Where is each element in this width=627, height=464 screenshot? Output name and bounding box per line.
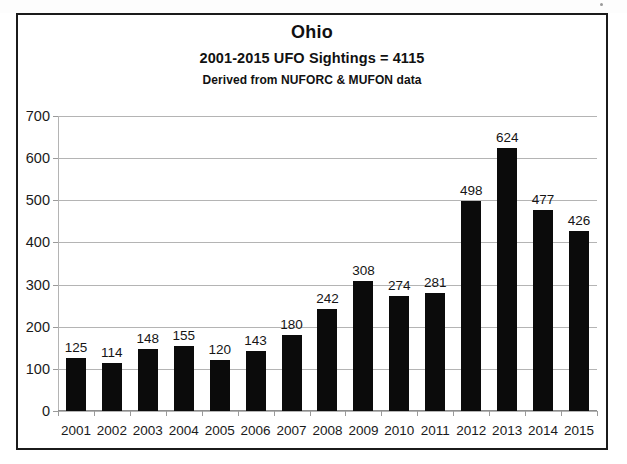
x-tick-mark bbox=[274, 411, 275, 416]
x-tick-mark bbox=[417, 411, 418, 416]
bar-group[interactable]: 3082009 bbox=[345, 116, 381, 411]
y-tick-label: 400 bbox=[26, 234, 50, 250]
y-tick-label: 200 bbox=[26, 319, 50, 335]
scan-artifact-band bbox=[0, 0, 627, 13]
bar[interactable] bbox=[497, 148, 517, 411]
x-tick-label: 2012 bbox=[456, 423, 486, 438]
bar-value-label: 114 bbox=[101, 345, 123, 360]
bar-group[interactable]: 2812011 bbox=[417, 116, 453, 411]
bar-value-label: 143 bbox=[244, 333, 267, 348]
x-tick-mark bbox=[381, 411, 382, 416]
gridline bbox=[58, 411, 597, 412]
bar-group[interactable]: 4982012 bbox=[453, 116, 489, 411]
y-tick-label: 100 bbox=[26, 361, 50, 377]
bar[interactable] bbox=[102, 363, 122, 411]
x-tick-mark bbox=[561, 411, 562, 416]
bar-group[interactable]: 1802007 bbox=[274, 116, 310, 411]
bar-group[interactable]: 4262015 bbox=[561, 116, 597, 411]
plot-area: 0100200300400500600700 12520011142002148… bbox=[58, 116, 597, 411]
bar[interactable] bbox=[353, 281, 373, 411]
bar[interactable] bbox=[282, 335, 302, 411]
x-tick-mark bbox=[597, 411, 598, 416]
bar[interactable] bbox=[210, 360, 230, 411]
x-tick-label: 2008 bbox=[312, 423, 342, 438]
bar-group[interactable]: 2742010 bbox=[381, 116, 417, 411]
x-tick-label: 2009 bbox=[348, 423, 378, 438]
x-tick-mark bbox=[453, 411, 454, 416]
x-tick-label: 2002 bbox=[97, 423, 127, 438]
x-tick-mark bbox=[166, 411, 167, 416]
bar[interactable] bbox=[174, 346, 194, 411]
bar-value-label: 180 bbox=[280, 317, 303, 332]
bar[interactable] bbox=[66, 358, 86, 411]
bar-value-label: 155 bbox=[172, 328, 195, 343]
chart-frame: Ohio 2001-2015 UFO Sightings = 4115 Deri… bbox=[16, 13, 608, 450]
bar[interactable] bbox=[569, 231, 589, 411]
x-tick-label: 2005 bbox=[205, 423, 235, 438]
bar-group[interactable]: 4772014 bbox=[525, 116, 561, 411]
bar-group[interactable]: 1432006 bbox=[238, 116, 274, 411]
bar-group[interactable]: 1252001 bbox=[58, 116, 94, 411]
x-tick-mark bbox=[310, 411, 311, 416]
x-tick-mark bbox=[58, 411, 59, 416]
x-tick-mark bbox=[202, 411, 203, 416]
bar-value-label: 274 bbox=[388, 278, 411, 293]
x-tick-mark bbox=[525, 411, 526, 416]
y-tick-label: 700 bbox=[26, 108, 50, 124]
bar[interactable] bbox=[533, 210, 553, 411]
x-tick-label: 2004 bbox=[169, 423, 199, 438]
bar-group[interactable]: 2422008 bbox=[310, 116, 346, 411]
bar-group[interactable]: 1202005 bbox=[202, 116, 238, 411]
bar[interactable] bbox=[246, 351, 266, 411]
y-tick-label: 600 bbox=[26, 150, 50, 166]
bar[interactable] bbox=[425, 293, 445, 411]
bar-value-label: 148 bbox=[137, 331, 160, 346]
title-block: Ohio 2001-2015 UFO Sightings = 4115 Deri… bbox=[18, 21, 606, 88]
bar-value-label: 281 bbox=[424, 275, 447, 290]
bar-value-label: 242 bbox=[316, 291, 339, 306]
x-tick-label: 2003 bbox=[133, 423, 163, 438]
bar-value-label: 624 bbox=[496, 130, 519, 145]
y-tick-label: 0 bbox=[42, 403, 50, 419]
bar-value-label: 120 bbox=[208, 342, 231, 357]
x-tick-mark bbox=[489, 411, 490, 416]
bar-group[interactable]: 1482003 bbox=[130, 116, 166, 411]
x-tick-label: 2007 bbox=[277, 423, 307, 438]
x-tick-mark bbox=[130, 411, 131, 416]
bar[interactable] bbox=[138, 349, 158, 411]
chart-subtitle: 2001-2015 UFO Sightings = 4115 bbox=[18, 48, 606, 68]
x-tick-label: 2001 bbox=[61, 423, 91, 438]
bar-group[interactable]: 6242013 bbox=[489, 116, 525, 411]
x-tick-label: 2015 bbox=[564, 423, 594, 438]
x-tick-mark bbox=[94, 411, 95, 416]
x-tick-label: 2006 bbox=[241, 423, 271, 438]
bar[interactable] bbox=[389, 296, 409, 411]
chart-source-note: Derived from NUFORC & MUFON data bbox=[18, 72, 606, 88]
bar-group[interactable]: 1142002 bbox=[94, 116, 130, 411]
y-tick-label: 500 bbox=[26, 192, 50, 208]
bar-group[interactable]: 1552004 bbox=[166, 116, 202, 411]
bar-value-label: 498 bbox=[460, 183, 483, 198]
bar-value-label: 477 bbox=[532, 192, 555, 207]
bar-value-label: 308 bbox=[352, 263, 375, 278]
x-tick-label: 2013 bbox=[492, 423, 522, 438]
x-tick-mark bbox=[345, 411, 346, 416]
x-tick-mark bbox=[238, 411, 239, 416]
x-tick-label: 2014 bbox=[528, 423, 558, 438]
bar[interactable] bbox=[461, 201, 481, 411]
x-tick-label: 2011 bbox=[421, 423, 450, 438]
x-tick-label: 2010 bbox=[384, 423, 414, 438]
bar-value-label: 125 bbox=[65, 340, 88, 355]
y-tick-label: 300 bbox=[26, 277, 50, 293]
bar-value-label: 426 bbox=[568, 213, 591, 228]
chart-title: Ohio bbox=[18, 21, 606, 43]
bar[interactable] bbox=[317, 309, 337, 411]
